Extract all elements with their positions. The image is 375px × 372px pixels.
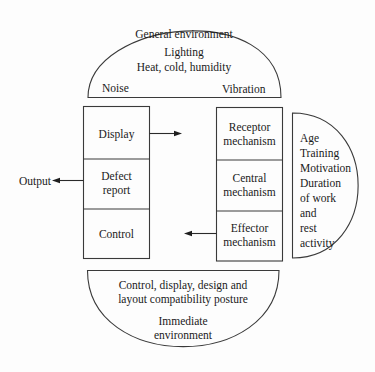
vibration-label: Vibration bbox=[222, 83, 266, 95]
receptor-label: Receptor bbox=[229, 121, 271, 134]
central-mechanism-label: mechanism bbox=[223, 186, 275, 198]
report-label: report bbox=[103, 184, 131, 197]
diagram-canvas: General environment Lighting Heat, cold,… bbox=[0, 0, 375, 372]
compatibility-line-1: Control, display, design and bbox=[119, 279, 248, 292]
machine-box: Display Defect report Control bbox=[84, 107, 150, 259]
environment-label: environment bbox=[154, 329, 213, 341]
defect-label: Defect bbox=[101, 170, 132, 182]
display-label: Display bbox=[99, 128, 135, 141]
duration-label: Duration bbox=[300, 177, 341, 189]
control-label: Control bbox=[99, 228, 134, 240]
training-label: Training bbox=[300, 147, 339, 160]
activity-label: activity bbox=[300, 237, 335, 250]
motivation-label: Motivation bbox=[300, 162, 351, 174]
output-label: Output bbox=[19, 175, 52, 188]
rest-label: rest bbox=[300, 222, 317, 234]
of-work-label: of work bbox=[300, 192, 336, 204]
central-label: Central bbox=[233, 172, 267, 184]
heat-cold-humidity-label: Heat, cold, humidity bbox=[137, 61, 232, 74]
immediate-label: Immediate bbox=[158, 315, 207, 327]
and-label: and bbox=[300, 207, 317, 219]
effector-to-control-arrow bbox=[184, 231, 217, 236]
compatibility-line-2: layout compatibility posture bbox=[118, 293, 248, 306]
effector-mechanism-label: mechanism bbox=[223, 236, 275, 248]
receptor-mechanism-label: mechanism bbox=[223, 135, 275, 147]
personal-factors: Age Training Motivation Duration of work… bbox=[293, 113, 359, 258]
lighting-label: Lighting bbox=[164, 46, 204, 59]
noise-label: Noise bbox=[102, 82, 129, 94]
age-label: Age bbox=[300, 132, 319, 145]
output-arrow bbox=[52, 178, 84, 183]
human-box: Receptor mechanism Central mechanism Eff… bbox=[217, 108, 283, 262]
general-environment-title: General environment bbox=[135, 28, 233, 40]
display-to-receptor-arrow bbox=[150, 131, 183, 136]
immediate-environment: Control, display, design and layout comp… bbox=[88, 271, 280, 347]
effector-label: Effector bbox=[231, 222, 269, 234]
human-machine-diagram: General environment Lighting Heat, cold,… bbox=[0, 0, 375, 372]
general-environment: General environment Lighting Heat, cold,… bbox=[88, 28, 281, 98]
